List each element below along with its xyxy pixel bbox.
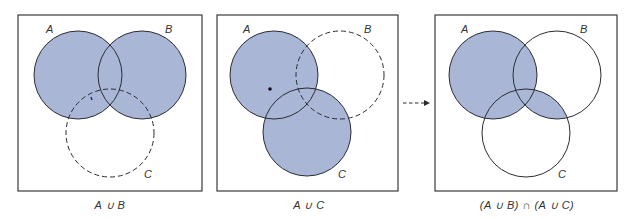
panel-2-caption: A ∪ C [293,199,325,212]
panel-3-distributive-result: A B C [435,15,617,191]
venn-figure: A B C A B C A B C [0,0,635,219]
panel-1-label-c: C [144,168,152,180]
panel-2-point-dot [268,87,272,91]
panel-1-label-a: A [45,23,53,35]
panel-2-label-a: A [242,23,250,35]
panel-1-stray-mark [91,97,92,100]
panel-3-label-a: A [460,23,468,35]
panel-2-label-b: B [364,23,371,35]
panel-1-label-b: B [165,23,172,35]
dashed-arrow-icon [403,100,430,106]
panel-2-label-c: C [338,168,346,180]
panel-1-caption: A ∪ B [95,199,126,212]
panel-2-a-union-c: A B C [217,15,398,191]
panel-3-label-c: C [558,168,566,180]
panel-3-label-b: B [580,23,587,35]
panel-1-a-union-b: A B C [18,15,202,191]
panel-3-caption: (A ∪ B) ∩ (A ∪ C) [480,199,575,212]
